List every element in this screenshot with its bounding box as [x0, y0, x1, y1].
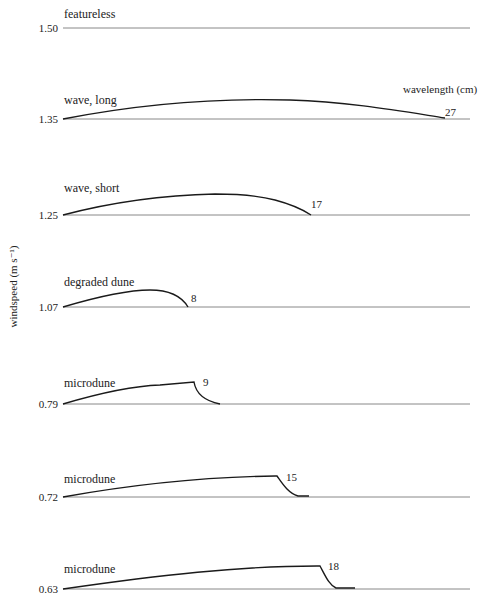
panel-microdune-15: microdune 0.72 15 — [39, 471, 470, 503]
windspeed-value: 0.72 — [39, 491, 58, 503]
bedform-label: microdune — [64, 472, 115, 486]
wavelength-value: 27 — [445, 106, 457, 118]
windspeed-value: 1.50 — [39, 22, 59, 34]
windspeed-value: 0.63 — [39, 583, 59, 595]
wavelength-value: 18 — [328, 560, 340, 572]
windspeed-value: 0.79 — [39, 398, 59, 410]
wavelength-value: 15 — [286, 471, 298, 483]
bedform-profile — [63, 100, 445, 119]
panel-microdune-9: microdune 0.79 9 — [39, 376, 470, 410]
panel-featureless: featureless 1.50 — [39, 7, 470, 34]
windspeed-value: 1.25 — [39, 209, 59, 221]
bedform-label: featureless — [64, 7, 116, 21]
windspeed-value: 1.35 — [39, 113, 59, 125]
bedform-label: wave, short — [64, 181, 120, 195]
bedform-profile — [63, 290, 188, 307]
wavelength-value: 17 — [311, 198, 323, 210]
wavelength-value: 9 — [203, 376, 209, 388]
y-axis-label: windspeed (m s⁻¹) — [7, 232, 20, 342]
windspeed-value: 1.07 — [39, 301, 59, 313]
bedform-label: microdune — [64, 376, 115, 390]
panel-wave-long: wavelength (cm) wave, long 1.35 27 — [39, 83, 478, 125]
x-axis-label: wavelength (cm) — [403, 83, 478, 96]
panel-microdune-18: microdune 0.63 18 — [39, 560, 470, 595]
bedform-profile-figure: windspeed (m s⁻¹) featureless 1.50 wavel… — [0, 0, 484, 605]
panel-wave-short: wave, short 1.25 17 — [39, 181, 470, 221]
bedform-label: microdune — [64, 562, 115, 576]
panel-degraded-dune: degraded dune 1.07 8 — [39, 275, 470, 313]
bedform-label: wave, long — [64, 93, 117, 107]
bedform-profile — [63, 194, 311, 215]
wavelength-value: 8 — [191, 292, 197, 304]
bedform-label: degraded dune — [64, 275, 134, 289]
